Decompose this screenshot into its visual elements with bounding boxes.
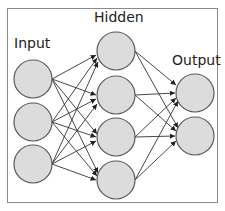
input-layer-label: Input [14,35,51,51]
hidden-node-4 [97,161,135,199]
hidden-layer [97,32,135,199]
neural-network-diagram: Input Hidden Output [0,0,225,211]
input-node-1 [14,60,52,98]
hidden-node-1 [97,32,135,70]
input-node-3 [14,145,52,183]
hidden-node-3 [97,118,135,156]
output-layer [176,74,214,155]
output-layer-label: Output [172,52,221,68]
edges-hidden-to-output [135,51,178,180]
input-layer [14,60,52,183]
hidden-layer-label: Hidden [94,9,144,25]
output-node-2 [176,117,214,155]
edges-input-to-hidden [52,55,98,180]
input-node-2 [14,103,52,141]
hidden-node-2 [97,76,135,114]
output-node-1 [176,74,214,112]
